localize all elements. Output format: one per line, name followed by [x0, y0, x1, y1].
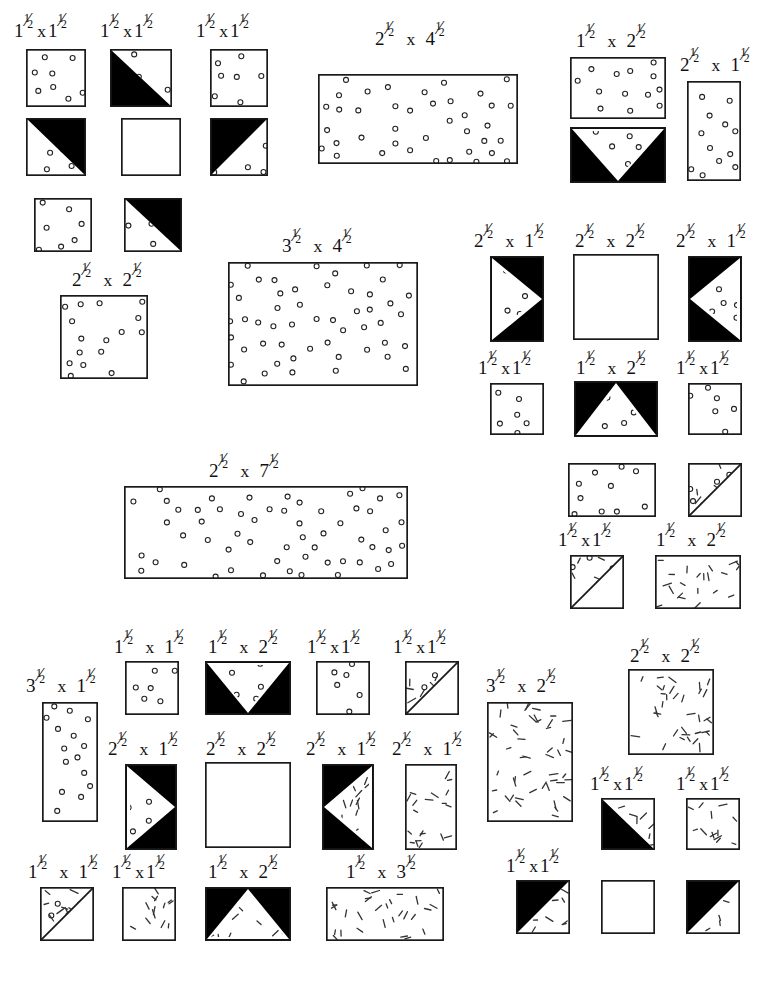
fabric-piece — [205, 661, 291, 715]
fabric-piece — [322, 764, 374, 850]
fabric-piece — [125, 661, 179, 715]
piece-size-label: 11⁄2x11⁄2 — [14, 18, 69, 40]
piece-size-label: 11⁄2 x 21⁄2 — [656, 527, 728, 549]
cutting-diagram-sheet: 11⁄2x11⁄211⁄2x11⁄211⁄2x11⁄221⁄2 x 21⁄221… — [0, 0, 777, 999]
fabric-piece — [122, 887, 176, 941]
piece-size-label: 31⁄2 x 21⁄2 — [486, 673, 558, 695]
fabric-piece — [516, 880, 570, 934]
piece-size-label: 11⁄2 x 21⁄2 — [208, 634, 280, 656]
piece-size-label: 11⁄2x11⁄2 — [506, 853, 561, 875]
piece-size-label: 11⁄2x11⁄2 — [307, 634, 362, 656]
piece-size-label: 21⁄2 x 21⁄2 — [206, 736, 278, 758]
fabric-piece — [490, 383, 544, 435]
piece-size-label: 21⁄2 x 21⁄2 — [630, 643, 702, 665]
piece-size-label: 31⁄2 x 41⁄2 — [282, 233, 354, 255]
fabric-piece — [688, 256, 742, 342]
piece-size-label: 21⁄2 x 11⁄2 — [676, 228, 748, 250]
piece-size-label: 11⁄2x11⁄2 — [676, 771, 731, 793]
fabric-piece — [686, 798, 740, 850]
fabric-piece — [405, 764, 457, 850]
fabric-piece — [490, 256, 544, 342]
fabric-piece — [687, 81, 741, 181]
fabric-piece — [110, 49, 172, 107]
piece-size-label: 21⁄2 x 11⁄2 — [306, 736, 378, 758]
piece-size-label: 21⁄2 x 11⁄2 — [680, 52, 752, 74]
piece-size-label: 31⁄2 x 11⁄2 — [26, 673, 98, 695]
piece-size-label: 21⁄2 x 21⁄2 — [72, 267, 144, 289]
fabric-piece — [121, 118, 181, 176]
piece-size-label: 11⁄2 x 11⁄2 — [114, 634, 186, 656]
fabric-piece — [326, 887, 444, 941]
fabric-piece — [228, 262, 418, 386]
fabric-piece — [40, 887, 94, 941]
fabric-piece — [205, 762, 291, 848]
piece-size-label: 11⁄2 x 31⁄2 — [346, 859, 418, 881]
fabric-piece — [688, 463, 742, 517]
fabric-piece — [570, 127, 666, 183]
piece-size-label: 21⁄2 x 71⁄2 — [209, 458, 281, 480]
fabric-piece — [42, 702, 98, 822]
fabric-piece — [574, 381, 658, 437]
piece-size-label: 11⁄2x11⁄2 — [590, 771, 645, 793]
piece-size-label: 11⁄2 x 21⁄2 — [208, 859, 280, 881]
fabric-piece — [655, 555, 741, 609]
fabric-piece — [205, 887, 291, 941]
piece-size-label: 11⁄2 x 21⁄2 — [576, 355, 648, 377]
piece-size-label: 11⁄2x11⁄2 — [393, 634, 448, 656]
fabric-piece — [570, 555, 624, 609]
fabric-piece — [210, 118, 268, 176]
piece-size-label: 11⁄2x11⁄2 — [676, 355, 731, 377]
piece-size-label: 21⁄2 x 11⁄2 — [474, 228, 546, 250]
fabric-piece — [570, 57, 666, 119]
fabric-piece — [601, 798, 655, 850]
piece-size-label: 11⁄2 x 21⁄2 — [576, 28, 648, 50]
fabric-piece — [124, 486, 408, 579]
fabric-piece — [210, 49, 268, 107]
fabric-piece — [601, 880, 655, 934]
piece-size-label: 11⁄2x11⁄2 — [112, 859, 167, 881]
fabric-piece — [318, 74, 518, 164]
piece-size-label: 11⁄2x11⁄2 — [478, 355, 533, 377]
fabric-piece — [26, 118, 86, 176]
fabric-piece — [573, 254, 659, 340]
piece-size-label: 11⁄2x11⁄2 — [558, 527, 613, 549]
fabric-piece — [686, 880, 740, 934]
piece-size-label: 11⁄2 x 11⁄2 — [28, 859, 100, 881]
piece-size-label: 11⁄2x11⁄2 — [196, 18, 251, 40]
fabric-piece — [405, 661, 459, 715]
fabric-piece — [628, 669, 714, 755]
piece-size-label: 11⁄2x11⁄2 — [100, 18, 155, 40]
fabric-piece — [60, 295, 148, 379]
fabric-piece — [688, 383, 742, 435]
fabric-piece — [487, 702, 573, 822]
fabric-piece — [568, 463, 656, 517]
piece-size-label: 21⁄2 x 41⁄2 — [375, 26, 447, 48]
fabric-piece — [316, 661, 370, 715]
piece-size-label: 21⁄2 x 21⁄2 — [575, 228, 647, 250]
fabric-piece — [125, 764, 177, 850]
piece-size-label: 21⁄2 x 11⁄2 — [392, 736, 464, 758]
fabric-piece — [34, 198, 92, 252]
piece-size-label: 21⁄2 x 11⁄2 — [108, 736, 180, 758]
fabric-piece — [124, 198, 182, 252]
fabric-piece — [26, 49, 86, 107]
